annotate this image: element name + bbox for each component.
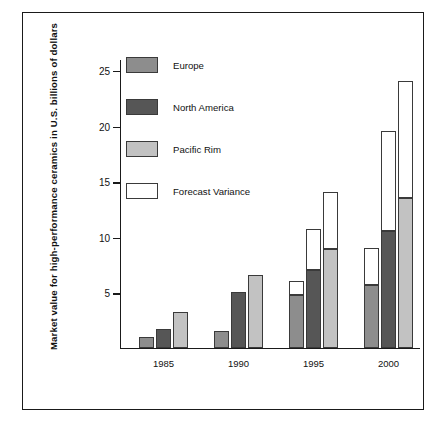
y-tick-label: 20 <box>99 121 110 132</box>
value-segment <box>398 198 413 348</box>
y-tick-label: 5 <box>104 288 110 299</box>
bar-1985-north-america <box>156 329 171 348</box>
value-segment <box>156 329 171 348</box>
x-tick-label: 1990 <box>228 358 249 369</box>
bar-2000-north-america <box>381 131 396 348</box>
value-segment <box>231 292 246 348</box>
y-tick-mark <box>113 293 120 294</box>
bar-2000-pacific-rim <box>398 81 413 348</box>
value-segment <box>381 231 396 348</box>
value-segment <box>214 331 229 348</box>
forecast-variance-segment <box>398 81 413 198</box>
y-tick-mark <box>113 238 120 239</box>
value-segment <box>289 295 304 347</box>
value-segment <box>173 312 188 348</box>
forecast-variance-segment <box>381 131 396 231</box>
y-tick-mark <box>113 71 120 72</box>
bar-1985-pacific-rim <box>173 312 188 348</box>
bar-1995-europe <box>289 281 304 348</box>
forecast-variance-segment <box>364 248 379 286</box>
bar-1990-north-america <box>231 292 246 348</box>
y-tick-mark <box>113 127 120 128</box>
bar-1990-pacific-rim <box>248 275 263 347</box>
forecast-variance-segment <box>306 229 321 270</box>
bar-2000-europe <box>364 248 379 348</box>
value-segment <box>139 337 154 348</box>
y-tick-mark <box>113 182 120 183</box>
value-segment <box>364 285 379 347</box>
y-axis-line <box>120 60 121 349</box>
chart-figure: Market value for high-performance cerami… <box>0 0 446 425</box>
forecast-variance-segment <box>289 281 304 295</box>
chart-frame: Market value for high-performance cerami… <box>22 12 424 410</box>
bar-1985-europe <box>139 337 154 348</box>
value-segment <box>323 249 338 348</box>
x-tick-label: 2000 <box>378 358 399 369</box>
x-tick-label: 1985 <box>153 358 174 369</box>
bar-1995-north-america <box>306 229 321 348</box>
bar-1995-pacific-rim <box>323 192 338 348</box>
forecast-variance-segment <box>323 192 338 249</box>
y-axis-label: Market value for high-performance cerami… <box>48 7 59 367</box>
bar-1990-europe <box>214 331 229 348</box>
x-axis-line <box>120 348 420 349</box>
plot-area: 510152025 1985199019952000 <box>120 60 420 349</box>
y-tick-label: 25 <box>99 66 110 77</box>
x-tick-label: 1995 <box>303 358 324 369</box>
value-segment <box>306 270 321 348</box>
y-tick-label: 10 <box>99 232 110 243</box>
y-tick-label: 15 <box>99 177 110 188</box>
value-segment <box>248 275 263 347</box>
